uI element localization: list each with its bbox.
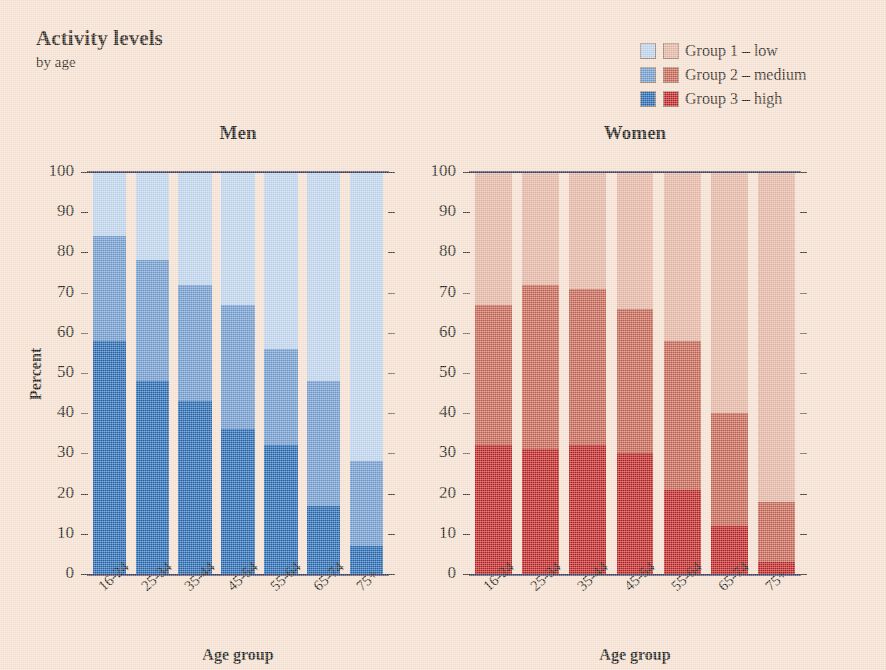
panel-title: Men xyxy=(88,122,388,144)
y-tick xyxy=(463,212,470,213)
bar-stack xyxy=(264,172,297,574)
bar-segment-medium xyxy=(221,305,254,430)
y-tick xyxy=(463,494,470,495)
plot-area xyxy=(470,172,800,574)
y-tick-label: 100 xyxy=(40,161,74,181)
y-tick-label: 50 xyxy=(422,362,456,382)
title-block: Activity levels by age xyxy=(36,26,163,71)
legend-item: Group 2 – medium xyxy=(640,64,806,86)
y-tick-label: 20 xyxy=(40,483,74,503)
bar-segment-medium xyxy=(569,289,606,446)
y-tick-label: 10 xyxy=(40,523,74,543)
y-tick xyxy=(81,212,88,213)
page-title: Activity levels xyxy=(36,26,163,50)
plot-inner xyxy=(470,172,800,574)
y-tick xyxy=(463,373,470,374)
y-axis-title: Percent xyxy=(27,340,45,400)
bar-segment-medium xyxy=(711,413,748,526)
y-tick xyxy=(463,252,470,253)
y-tick-right xyxy=(388,293,395,294)
legend-swatch-women xyxy=(663,43,679,59)
bar-stack xyxy=(758,172,795,574)
plot-top-line xyxy=(87,171,389,173)
y-tick-right xyxy=(388,172,395,173)
y-tick-label: 60 xyxy=(422,322,456,342)
bar-segment-low xyxy=(221,172,254,305)
legend-swatch-women xyxy=(663,91,679,107)
y-tick xyxy=(81,172,88,173)
y-tick-right xyxy=(388,212,395,213)
legend-swatch-women xyxy=(663,67,679,83)
y-tick xyxy=(463,413,470,414)
legend-label: Group 1 – low xyxy=(685,42,778,60)
bar-segment-low xyxy=(664,172,701,341)
y-tick-right xyxy=(800,453,807,454)
bar-segment-medium xyxy=(136,260,169,381)
y-tick xyxy=(463,172,470,173)
bar-stack xyxy=(711,172,748,574)
bar-stack xyxy=(307,172,340,574)
bar-segment-medium xyxy=(617,309,654,454)
bar-segment-high xyxy=(93,341,126,574)
bar-stack xyxy=(178,172,211,574)
bar-segment-high xyxy=(475,445,512,574)
y-tick-label: 0 xyxy=(422,563,456,583)
bar-segment-medium xyxy=(350,461,383,545)
bar-stack xyxy=(93,172,126,574)
y-tick-right xyxy=(388,574,395,575)
bar-segment-medium xyxy=(93,236,126,341)
y-tick-right xyxy=(388,413,395,414)
bar-segment-low xyxy=(569,172,606,289)
y-tick-label: 60 xyxy=(40,322,74,342)
y-tick-right xyxy=(800,413,807,414)
bar-segment-low xyxy=(711,172,748,413)
y-tick-label: 20 xyxy=(422,483,456,503)
bar-segment-low xyxy=(178,172,211,285)
bar-segment-medium xyxy=(178,285,211,402)
bar-segment-medium xyxy=(307,381,340,506)
bar-segment-medium xyxy=(522,285,559,450)
y-tick-right xyxy=(800,212,807,213)
legend-swatch-men xyxy=(640,91,656,107)
y-tick xyxy=(81,413,88,414)
y-tick-label: 100 xyxy=(422,161,456,181)
y-tick-right xyxy=(800,373,807,374)
y-tick xyxy=(81,574,88,575)
y-tick-label: 10 xyxy=(422,523,456,543)
y-tick-label: 30 xyxy=(40,442,74,462)
y-tick xyxy=(81,293,88,294)
y-tick-label: 40 xyxy=(40,402,74,422)
bar-segment-high xyxy=(221,429,254,574)
y-tick xyxy=(463,534,470,535)
legend-label: Group 2 – medium xyxy=(685,66,806,84)
bar-stack xyxy=(350,172,383,574)
y-tick xyxy=(81,252,88,253)
y-tick-right xyxy=(388,494,395,495)
y-tick-label: 30 xyxy=(422,442,456,462)
bar-segment-low xyxy=(264,172,297,349)
legend: Group 1 – lowGroup 2 – mediumGroup 3 – h… xyxy=(640,40,806,112)
bar-segment-medium xyxy=(264,349,297,445)
y-tick xyxy=(463,574,470,575)
y-tick-right xyxy=(800,252,807,253)
y-tick-right xyxy=(388,373,395,374)
x-axis-title: Age group xyxy=(470,646,800,664)
y-tick-right xyxy=(800,333,807,334)
y-tick xyxy=(463,333,470,334)
y-tick xyxy=(81,453,88,454)
bar-stack xyxy=(136,172,169,574)
y-tick-label: 80 xyxy=(422,241,456,261)
y-tick-right xyxy=(800,172,807,173)
y-tick xyxy=(463,453,470,454)
bar-segment-medium xyxy=(475,305,512,446)
bar-segment-high xyxy=(136,381,169,574)
bar-stack xyxy=(617,172,654,574)
bar-stack xyxy=(569,172,606,574)
bar-segment-medium xyxy=(664,341,701,490)
y-tick-right xyxy=(800,494,807,495)
legend-item: Group 3 – high xyxy=(640,88,806,110)
y-tick-label: 80 xyxy=(40,241,74,261)
legend-swatch-men xyxy=(640,43,656,59)
bar-segment-low xyxy=(522,172,559,285)
bar-segment-low xyxy=(136,172,169,260)
